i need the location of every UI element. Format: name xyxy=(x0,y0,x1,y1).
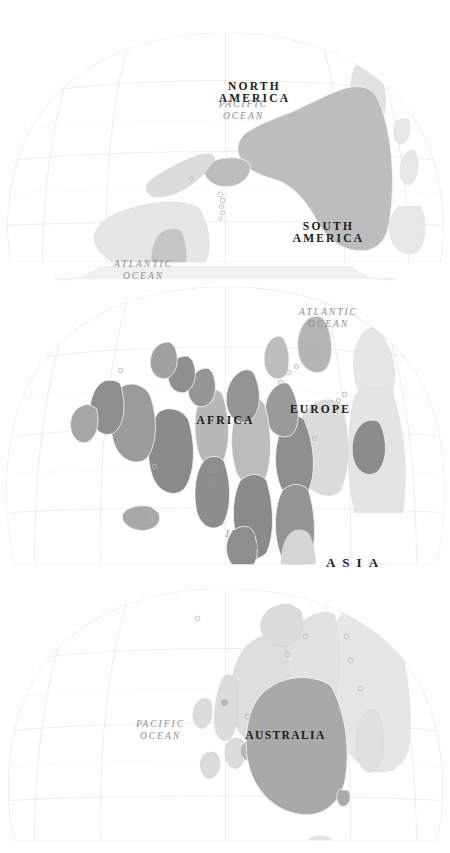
lobe-americas xyxy=(0,20,450,284)
tasmania xyxy=(336,789,349,806)
map-rotation-frame: NORTH AMERICA SOUTH AMERICA AFRICA EUROP… xyxy=(0,0,450,853)
world-map: NORTH AMERICA SOUTH AMERICA AFRICA EUROP… xyxy=(0,0,450,853)
lobe-asia-australia xyxy=(0,582,450,853)
greenland xyxy=(389,206,424,253)
arabian-peninsula xyxy=(281,529,315,594)
lobe-africa-europe xyxy=(0,280,450,594)
asia-wrap-sliver xyxy=(54,266,396,279)
world-map-svg xyxy=(0,0,450,853)
